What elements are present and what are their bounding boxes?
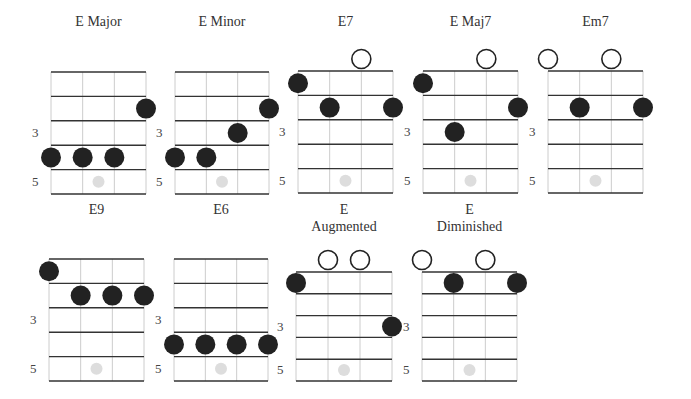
open-string-icon [476,251,495,270]
finger-position-dot [444,273,464,293]
fretboard-grid [0,0,691,399]
finger-position-dot [507,273,527,293]
open-string-icon [413,251,432,270]
fret-marker-dot [464,364,476,376]
